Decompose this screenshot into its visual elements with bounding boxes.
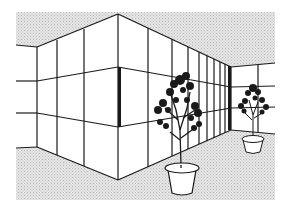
corner-dark-strip	[118, 67, 121, 127]
back-corner-dark-strip	[228, 66, 231, 130]
floor	[16, 130, 275, 200]
room-illustration	[0, 0, 295, 211]
